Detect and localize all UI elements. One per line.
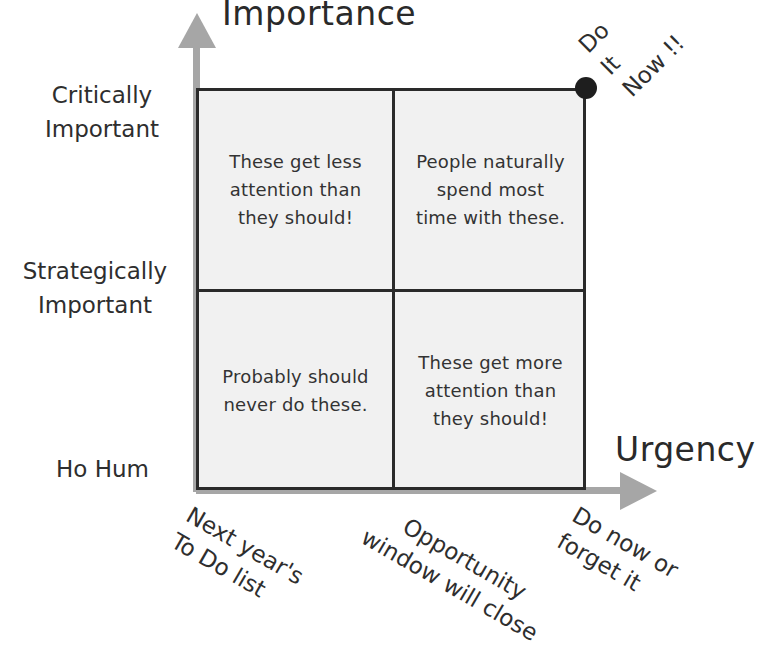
quadrant-grid: These get less attention than they shoul… bbox=[196, 88, 586, 490]
urgency-arrow-head bbox=[620, 472, 657, 510]
quadrant-top-left: These get less attention than they shoul… bbox=[199, 91, 392, 289]
y-axis-title: Importance bbox=[222, 0, 416, 33]
do-it-now-dot bbox=[575, 77, 597, 99]
importance-arrow-head bbox=[178, 13, 216, 48]
quadrant-bottom-left: Probably should never do these. bbox=[199, 292, 392, 490]
y-label-critically-important: Critically Important bbox=[22, 78, 182, 146]
x-axis-title: Urgency bbox=[615, 430, 755, 469]
quadrant-top-right: People naturally spend most time with th… bbox=[395, 91, 586, 289]
quadrant-top-right-text: People naturally spend most time with th… bbox=[416, 148, 565, 232]
y-label-ho-hum: Ho Hum bbox=[40, 452, 165, 486]
quadrant-top-left-text: These get less attention than they shoul… bbox=[229, 148, 362, 232]
quadrant-bottom-right-text: These get more attention than they shoul… bbox=[418, 349, 562, 433]
quadrant-bottom-right: These get more attention than they shoul… bbox=[395, 292, 586, 490]
quadrant-bottom-left-text: Probably should never do these. bbox=[222, 363, 368, 419]
y-label-strategically-important: Strategically Important bbox=[0, 254, 190, 322]
